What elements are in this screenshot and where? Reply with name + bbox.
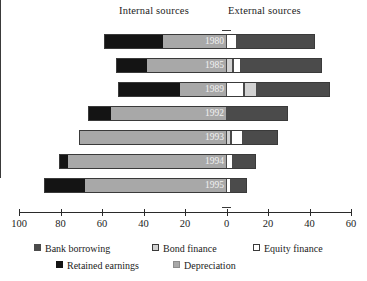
axis-tick-label: 60 [346,218,357,229]
bar-segment-equity [233,58,241,73]
legend-swatch-retained-icon [56,261,63,268]
legend-swatch-depreciation-icon [173,261,180,268]
axis-tick-label: 20 [263,218,274,229]
legend-swatch-bond-icon [152,244,159,251]
axis-tick [351,209,352,216]
bar-year-label: 1980 [194,35,226,48]
legend-item-depreciation: Depreciation [173,255,236,269]
bar-segment-retained [44,178,85,193]
internal-sources-header: Internal sources [119,5,189,16]
legend-label: Bond finance [163,243,217,254]
bar-segment-bank [237,34,315,49]
axis-tick [61,209,62,216]
bar-year-label: 1985 [194,59,226,72]
axis-tick-label: 100 [11,218,27,229]
axis-tick-label: 20 [180,218,191,229]
axis-tick [227,209,228,216]
bar-segment-bank [231,178,247,193]
legend-row: Retained earningsDepreciation [0,255,367,269]
bar-year-label: 1992 [194,107,226,120]
legend-swatch-bank-icon [34,244,41,251]
bar-segment-bank [257,82,330,97]
legend-label: Retained earnings [67,260,139,271]
legend-item-bank: Bank borrowing [34,238,110,252]
bar-segment-retained [116,58,147,73]
bar-segment-equity [226,82,244,97]
axis-tick-label: 80 [55,218,66,229]
bar-segment-retained [59,154,68,169]
bar-year-label: 1995 [194,179,226,192]
legend-item-bond: Bond finance [152,238,217,252]
bar-year-label: 1993 [194,131,226,144]
axis-tick-label: 40 [304,218,315,229]
axis-tick [185,209,186,216]
bar-segment-retained [88,106,111,121]
legend-item-retained: Retained earnings [56,255,139,269]
legend-label: Depreciation [184,260,236,271]
bar-year-label: 1994 [194,155,226,168]
legend-swatch-equity-icon [253,244,260,251]
legend-label: Bank borrowing [45,243,110,254]
bar-year-label: 1989 [194,83,226,96]
bar-segment-equity [231,130,243,145]
bar-segment-bank [226,106,288,121]
bar-segment-retained [104,34,163,49]
legend-label: Equity finance [264,243,323,254]
legend-row: Bank borrowingBond financeEquity finance [0,238,367,252]
axis-tick [19,209,20,216]
axis-tick-label: 60 [97,218,108,229]
bar-segment-retained [118,82,180,97]
bar-segment-bank [243,130,278,145]
axis-tick [310,209,311,216]
external-sources-header: External sources [228,5,301,16]
bar-segment-bond [226,58,233,73]
axis-tick [102,209,103,216]
axis-tick [268,209,269,216]
axis-tick-label: 0 [224,218,229,229]
chart-container: Internal sources External sources 198019… [0,0,367,281]
legend-item-equity: Equity finance [253,238,323,252]
plot-area: 1980198519891992199319941995 [0,30,367,208]
bar-segment-bond [244,82,257,97]
bar-segment-equity [226,34,237,49]
x-axis: 100806040200204060 [0,212,367,213]
axis-tick-label: 40 [138,218,149,229]
axis-tick [144,209,145,216]
bar-segment-bank [233,154,256,169]
bar-segment-bank [241,58,322,73]
bar-segment-equity [226,154,233,169]
